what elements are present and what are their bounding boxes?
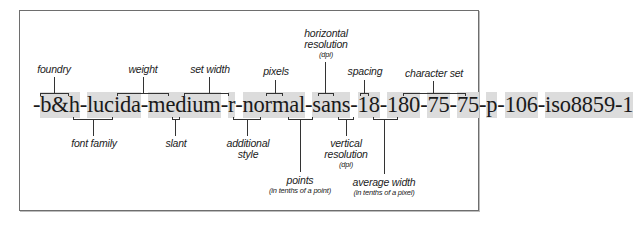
leader-line [175,120,176,136]
label-line: average width [353,176,416,188]
label-spacing: spacing [348,66,383,77]
bracket-spacing [360,93,369,96]
segment-average-width: 106 [505,92,538,118]
label-unit: (dpi) [324,160,368,170]
leader-line [384,120,385,174]
bracket-foundry [40,93,69,96]
label-unit: (dpi) [304,50,348,60]
leader-line [364,80,365,93]
label-slant: slant [165,138,186,149]
label-line: resolution [324,148,368,160]
segment-character-set: iso8859-1 [545,92,633,118]
separator: - [497,92,504,118]
bracket-average-width [373,117,398,120]
separator: - [479,92,486,118]
leader-line [325,62,326,93]
bracket-character-set [403,93,466,96]
separator: - [235,92,242,118]
separator: - [380,92,387,118]
separator: - [350,92,357,118]
bracket-slant [172,117,180,120]
label-points: points (in tenths of a point) [269,175,331,196]
leader-line [247,120,248,136]
segment-slant: r [228,92,235,118]
leader-line [275,80,276,93]
bracket-horizontal-resolution [318,93,334,96]
leader-line [300,120,301,172]
bracket-weight [117,93,169,96]
leader-line [346,120,347,136]
label-unit: (in tenths of a point) [269,186,331,196]
label-line: points [287,174,314,186]
label-weight: weight [128,64,157,75]
segment-spacing: p [486,92,497,118]
bracket-set-width [184,93,229,96]
leader-line [54,77,55,93]
leader-line [433,81,434,93]
label-average-width: average width (in tenths of a pixel) [353,177,416,198]
leader-line [143,77,144,93]
separator: - [305,92,312,118]
label-additional-style: additional style [227,138,270,160]
separator: - [80,92,87,118]
label-pixels: pixels [263,66,289,77]
label-set-width: set width [190,64,230,75]
label-horizontal-resolution: horizontal resolution (dpi) [304,28,348,60]
label-font-family: font family [71,138,117,149]
label-character-set: character set [405,68,463,79]
bracket-pixels [266,93,283,96]
leader-line [93,120,94,136]
label-unit: (in tenths of a pixel) [353,188,416,198]
leader-line [209,77,210,93]
separator: - [538,92,545,118]
label-foundry: foundry [37,64,71,75]
label-vertical-resolution: vertical resolution (dpi) [324,138,368,170]
label-line: resolution [304,38,348,50]
label-line: style [238,148,259,160]
